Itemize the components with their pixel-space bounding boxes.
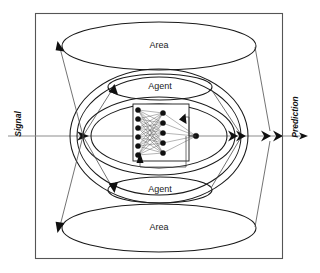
diagram-canvas: Area Area Agent Agent (0, 0, 320, 273)
diagram-figure: Area Area Agent Agent (0, 0, 320, 273)
agent-top-to-prediction-line (211, 89, 240, 133)
area-bottom-to-prediction-line (255, 141, 270, 227)
agent-bottom-arrowhead (109, 182, 118, 193)
area-top-label: Area (149, 40, 168, 50)
prediction-label: Prediction (290, 96, 300, 138)
area-bottom-label: Area (149, 222, 168, 232)
hub-to-agent-bottom-line (83, 136, 112, 187)
area-top-to-prediction-line (255, 47, 270, 131)
agent-bottom-label: Agent (148, 184, 172, 194)
agent-top-label: Agent (148, 81, 172, 91)
signal-label: Signal (13, 111, 23, 137)
